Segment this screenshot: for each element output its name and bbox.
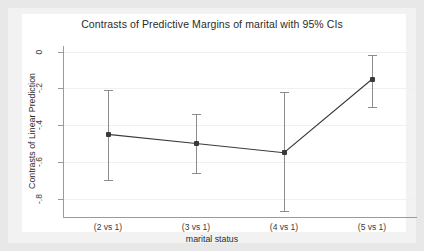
chart-title: Contrasts of Predictive Margins of marit…	[8, 18, 416, 30]
y-tick-label: 0	[26, 46, 52, 58]
graph-region: Contrasts of Predictive Margins of marit…	[8, 8, 416, 243]
y-tick-mark	[58, 162, 63, 163]
y-tick-mark	[58, 52, 63, 53]
x-tick-label: (3 vs 1)	[161, 222, 231, 232]
gridline	[64, 162, 416, 163]
error-bar-cap	[192, 173, 201, 174]
plot-area	[64, 48, 416, 217]
screenshot-root: Contrasts of Predictive Margins of marit…	[0, 0, 424, 251]
gridline	[64, 125, 416, 126]
error-bar-cap	[280, 211, 289, 212]
data-point-marker	[282, 150, 287, 155]
y-axis-title: Contrasts of Linear Prediction	[27, 61, 37, 201]
x-tick-label: (5 vs 1)	[337, 222, 407, 232]
error-bar-cap	[280, 92, 289, 93]
error-bar-cap	[104, 90, 113, 91]
y-tick-mark	[58, 125, 63, 126]
error-bar-cap	[104, 180, 113, 181]
x-axis-line	[63, 217, 417, 218]
data-point-marker	[370, 77, 375, 82]
y-axis-line	[63, 46, 64, 218]
gridline	[64, 88, 416, 89]
data-point-marker	[194, 141, 199, 146]
x-tick-label: (4 vs 1)	[249, 222, 319, 232]
x-tick-label: (2 vs 1)	[73, 222, 143, 232]
y-tick-mark	[58, 199, 63, 200]
data-point-marker	[106, 132, 111, 137]
gridline	[64, 199, 416, 200]
x-axis-title: marital status	[8, 234, 416, 244]
y-tick-mark	[58, 88, 63, 89]
gridline	[64, 52, 416, 53]
error-bar-cap	[192, 114, 201, 115]
error-bar-cap	[368, 107, 377, 108]
error-bar-cap	[368, 55, 377, 56]
